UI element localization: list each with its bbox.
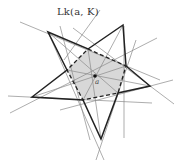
center-label: a <box>95 78 99 86</box>
link-diagram <box>0 0 181 167</box>
link-label: Lk(a, K) <box>57 6 99 17</box>
figure: Lk(a, K) a <box>0 0 181 167</box>
